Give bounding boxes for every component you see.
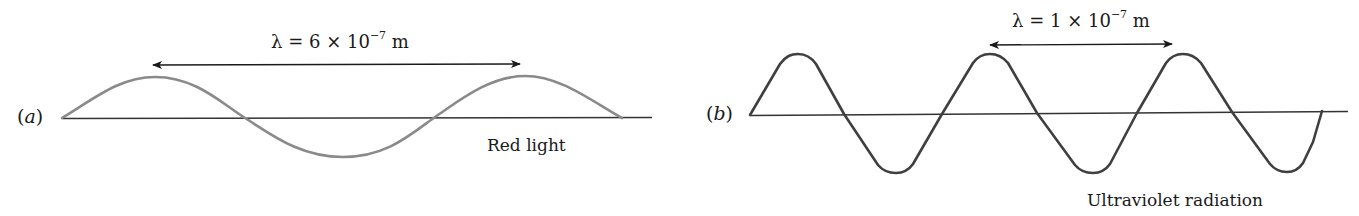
panel-b <box>750 44 1348 173</box>
wavelength-base: 10 <box>347 31 370 52</box>
wavelength-base: 10 <box>1088 10 1111 31</box>
wavelength-exponent: −7 <box>1111 8 1127 21</box>
wavelength-exponent: −7 <box>370 29 386 42</box>
panel-a-label-letter: a <box>24 105 35 127</box>
panel-a-label: (a) <box>17 107 43 126</box>
wave-diagram-canvas <box>0 0 1359 216</box>
panel-a-caption: Red light <box>487 137 566 154</box>
lambda-symbol: λ <box>1012 10 1023 31</box>
panel-b-wavelength-label: λ = 1 × 10−7 m <box>1012 12 1150 30</box>
panel-b-label: (b) <box>706 104 733 123</box>
lambda-symbol: λ <box>271 31 282 52</box>
panel-b-wavelength-arrow <box>990 44 1172 45</box>
wavelength-coefficient: 6 <box>309 31 320 52</box>
panel-b-caption: Ultraviolet radiation <box>1087 192 1263 209</box>
wavelength-unit: m <box>1133 10 1150 31</box>
wavelength-unit: m <box>392 31 409 52</box>
panel-b-axis-line <box>750 112 1348 116</box>
ultraviolet-wave <box>750 54 1322 173</box>
wavelength-coefficient: 1 <box>1050 10 1061 31</box>
panel-a-axis-line <box>62 118 652 119</box>
panel-b-label-letter: b <box>713 102 725 124</box>
wavelength-comparison-figure: (a) λ = 6 × 10−7 m Red light (b) λ = 1 ×… <box>0 0 1359 216</box>
panel-a-wavelength-arrow <box>153 64 520 65</box>
panel-a-wavelength-label: λ = 6 × 10−7 m <box>271 33 409 51</box>
